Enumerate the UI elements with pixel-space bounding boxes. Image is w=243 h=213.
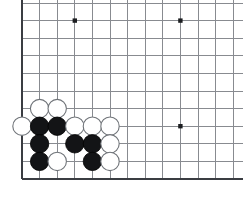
- white-stone: [101, 152, 119, 170]
- white-stone: [101, 117, 119, 135]
- white-stone: [48, 99, 66, 117]
- white-stone: [48, 152, 66, 170]
- black-stone: [83, 152, 101, 170]
- star-point: [73, 18, 77, 22]
- black-stone: [66, 135, 84, 153]
- go-board-diagram: [0, 0, 243, 213]
- white-stone: [13, 117, 31, 135]
- white-stone: [83, 117, 101, 135]
- goban-svg: [0, 0, 243, 213]
- black-stone: [30, 117, 48, 135]
- white-stone: [66, 117, 84, 135]
- white-stone: [30, 99, 48, 117]
- white-stone: [101, 135, 119, 153]
- black-stone: [30, 152, 48, 170]
- star-point: [178, 18, 182, 22]
- star-point: [178, 124, 182, 128]
- black-stone: [30, 135, 48, 153]
- black-stone: [48, 117, 66, 135]
- stones-layer: [13, 99, 119, 170]
- black-stone: [83, 135, 101, 153]
